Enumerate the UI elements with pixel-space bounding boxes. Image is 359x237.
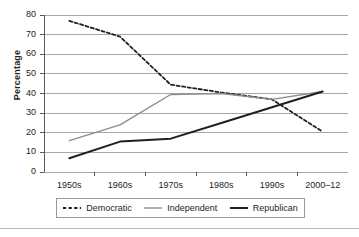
chart-figure: Percentage 01020304050607080 1950s1960s1… <box>0 0 359 237</box>
legend-label: Republican <box>253 203 298 213</box>
x-tick-label: 2000–12 <box>305 180 340 190</box>
x-tick-marks <box>95 172 298 176</box>
y-tick-label: 0 <box>14 166 36 176</box>
x-tick-label: 1980s <box>209 180 234 190</box>
series-line-republican <box>69 92 322 159</box>
y-tick-label: 40 <box>14 88 36 98</box>
data-series-group <box>69 21 322 158</box>
x-tick-label: 1950s <box>57 180 82 190</box>
x-tick-label: 1970s <box>158 180 183 190</box>
plot-area: Percentage 01020304050607080 1950s1960s1… <box>0 0 359 195</box>
footer-divider <box>0 228 359 229</box>
y-tick-label: 60 <box>14 48 36 58</box>
y-tick-label: 50 <box>14 68 36 78</box>
legend-swatch-dashed-line-icon <box>63 204 81 212</box>
y-tick-label: 20 <box>14 127 36 137</box>
legend-label: Independent <box>167 203 217 213</box>
legend-item-democratic[interactable]: Democratic <box>63 203 132 213</box>
x-tick-label: 1990s <box>260 180 285 190</box>
legend-label: Democratic <box>86 203 132 213</box>
series-line-democratic <box>69 21 322 132</box>
legend-item-independent[interactable]: Independent <box>144 203 217 213</box>
y-tick-label: 10 <box>14 146 36 156</box>
chart-legend: DemocraticIndependentRepublican <box>56 198 305 218</box>
legend-swatch-solid-line-icon <box>144 204 162 212</box>
x-tick-label: 1960s <box>108 180 133 190</box>
y-tick-marks <box>40 15 44 172</box>
y-tick-label: 80 <box>14 9 36 19</box>
legend-swatch-solid-line-icon <box>230 204 248 212</box>
line-chart-svg <box>0 0 359 195</box>
legend-item-republican[interactable]: Republican <box>230 203 298 213</box>
y-tick-label: 70 <box>14 29 36 39</box>
y-tick-label: 30 <box>14 107 36 117</box>
